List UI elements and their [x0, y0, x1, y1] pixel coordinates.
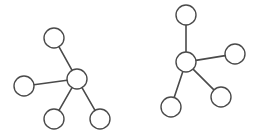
edge-left-star-c-left: [34, 80, 67, 84]
node-left-star-bl: [44, 109, 64, 129]
graph-svg: [0, 0, 256, 135]
edge-left-star-c-bl: [59, 88, 72, 111]
edge-right-star-c-bl: [174, 71, 183, 97]
node-left-star-c: [67, 69, 87, 89]
node-right-star-br: [211, 87, 231, 107]
node-left-star-top: [44, 28, 64, 48]
node-left-star-left: [14, 76, 34, 96]
node-right-star-top: [176, 5, 196, 25]
node-left-star-br: [90, 109, 110, 129]
edge-right-star-c-br: [193, 69, 214, 90]
node-right-star-c: [176, 52, 196, 72]
diagram-canvas: [0, 0, 256, 135]
edge-left-star-c-br: [82, 88, 95, 111]
nodes-layer: [14, 5, 245, 129]
node-right-star-right: [225, 44, 245, 64]
edge-right-star-c-right: [196, 56, 225, 61]
edge-left-star-c-top: [59, 47, 72, 71]
node-right-star-bl: [161, 97, 181, 117]
